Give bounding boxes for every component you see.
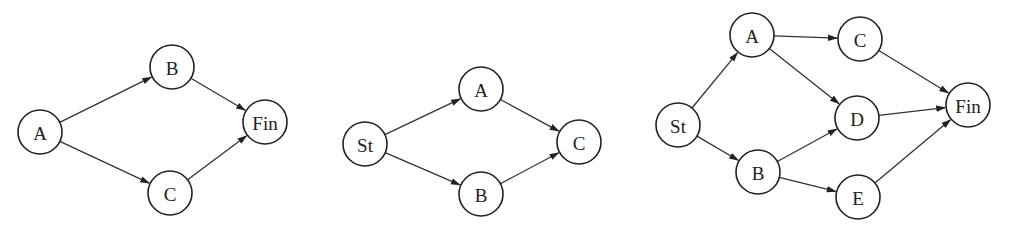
edge-b-to-e <box>779 177 835 191</box>
edge-d-to-fin <box>879 108 945 116</box>
edge-st-to-a <box>385 99 460 135</box>
diagram-2-edges <box>385 99 559 185</box>
node-b: B <box>459 172 503 216</box>
node-label: St <box>357 135 374 156</box>
edge-b-to-fin <box>191 78 245 110</box>
node-label: B <box>166 58 179 79</box>
node-label: A <box>33 123 47 144</box>
node-c: C <box>148 171 192 215</box>
node-fin: Fin <box>243 100 287 144</box>
node-c: C <box>557 120 601 164</box>
node-label: C <box>164 184 177 205</box>
edge-st-to-a <box>692 53 737 108</box>
diagram-canvas: ABCFinStABCStABCDEFin <box>0 0 1009 235</box>
node-label: B <box>752 163 765 184</box>
edge-st-to-b <box>697 136 738 160</box>
node-d: D <box>835 96 879 140</box>
diagram-1-edges <box>60 77 247 183</box>
node-b: B <box>736 150 780 194</box>
edge-b-to-c <box>500 153 558 184</box>
node-e: E <box>836 175 880 219</box>
diagram-3-edges <box>692 36 950 192</box>
node-st: St <box>656 103 700 147</box>
edge-c-to-fin <box>879 51 949 94</box>
node-b: B <box>150 45 194 89</box>
node-label: C <box>854 30 867 51</box>
nodes-layer: ABCFinStABCStABCDEFin <box>18 13 990 219</box>
node-a: A <box>730 13 774 57</box>
node-fin: Fin <box>946 83 990 127</box>
edge-c-to-fin <box>188 136 247 180</box>
edge-a-to-c <box>60 141 149 183</box>
node-st: St <box>343 122 387 166</box>
node-label: E <box>852 188 864 209</box>
edge-a-to-b <box>60 77 152 122</box>
node-label: A <box>474 80 488 101</box>
node-a: A <box>18 110 62 154</box>
node-label: C <box>573 133 586 154</box>
edge-st-to-b <box>385 153 460 185</box>
edge-b-to-d <box>777 129 837 162</box>
diagram-1-nodes: ABCFin <box>18 45 287 215</box>
edge-a-to-c <box>774 36 837 38</box>
node-label: B <box>475 185 488 206</box>
node-label: Fin <box>252 113 278 134</box>
node-c: C <box>838 17 882 61</box>
diagram-2-nodes: StABC <box>343 67 601 216</box>
node-a: A <box>459 67 503 111</box>
edge-e-to-fin <box>875 120 951 183</box>
node-label: A <box>745 26 759 47</box>
edge-a-to-c <box>500 100 558 132</box>
edge-a-to-d <box>769 49 839 104</box>
node-label: D <box>850 109 864 130</box>
node-label: St <box>670 116 687 137</box>
node-label: Fin <box>955 96 981 117</box>
